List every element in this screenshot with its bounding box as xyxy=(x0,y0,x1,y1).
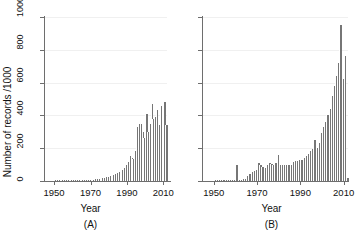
x-tick-label-1970: 1970 xyxy=(80,187,101,198)
y-tick-600 xyxy=(40,83,44,84)
panel-tag-b: (B) xyxy=(181,219,362,230)
x-axis-label-a: Year xyxy=(0,203,181,214)
panel-tag-a: (A) xyxy=(0,219,181,230)
x-tick-1950 xyxy=(214,181,215,185)
x-tick-2010 xyxy=(163,181,164,185)
y-tick-label-0: 0 xyxy=(16,176,181,181)
x-tick-1990 xyxy=(300,181,301,185)
plot-area-b xyxy=(203,17,348,181)
x-tick-1990 xyxy=(127,181,128,185)
bar xyxy=(344,56,347,181)
figure-container: Number of records /1000 0200400600800100… xyxy=(0,0,362,243)
x-tick-1970 xyxy=(91,181,92,185)
y-tick-label-600: 600 xyxy=(16,68,181,83)
y-tick-label-800: 800 xyxy=(16,35,181,50)
x-tick-1950 xyxy=(54,181,55,185)
x-tick-2010 xyxy=(344,181,345,185)
x-tick-label-1990: 1990 xyxy=(290,187,311,198)
x-tick-label-1950: 1950 xyxy=(203,187,224,198)
y-tick-label-400: 400 xyxy=(16,100,181,115)
y-tick-1000 xyxy=(40,17,44,18)
x-tick-1970 xyxy=(257,181,258,185)
panel-a: Number of records /1000 0200400600800100… xyxy=(0,0,181,243)
bar xyxy=(346,178,349,181)
bar-series-b xyxy=(203,17,348,181)
y-tick-800 xyxy=(198,50,202,51)
bar xyxy=(235,165,238,181)
x-tick-label-2010: 2010 xyxy=(153,187,174,198)
panel-b: 1950197019902010 Year (B) xyxy=(181,0,362,243)
y-axis-label-a-text: Number of records /1000 xyxy=(2,66,13,177)
y-tick-400 xyxy=(40,115,44,116)
x-tick-label-1970: 1970 xyxy=(247,187,268,198)
y-tick-800 xyxy=(40,50,44,51)
y-tick-400 xyxy=(198,115,202,116)
x-tick-label-1990: 1990 xyxy=(116,187,137,198)
y-tick-200 xyxy=(198,148,202,149)
x-axis-line-b xyxy=(202,181,349,182)
y-tick-0 xyxy=(198,181,202,182)
y-tick-600 xyxy=(198,83,202,84)
y-axis-label-a: Number of records /1000 xyxy=(2,66,13,177)
y-tick-label-200: 200 xyxy=(16,133,181,148)
x-axis-label-b: Year xyxy=(181,203,362,214)
x-tick-label-2010: 2010 xyxy=(333,187,354,198)
y-tick-1000 xyxy=(198,17,202,18)
x-tick-label-1950: 1950 xyxy=(44,187,65,198)
y-tick-label-1000: 1000 xyxy=(16,0,181,17)
